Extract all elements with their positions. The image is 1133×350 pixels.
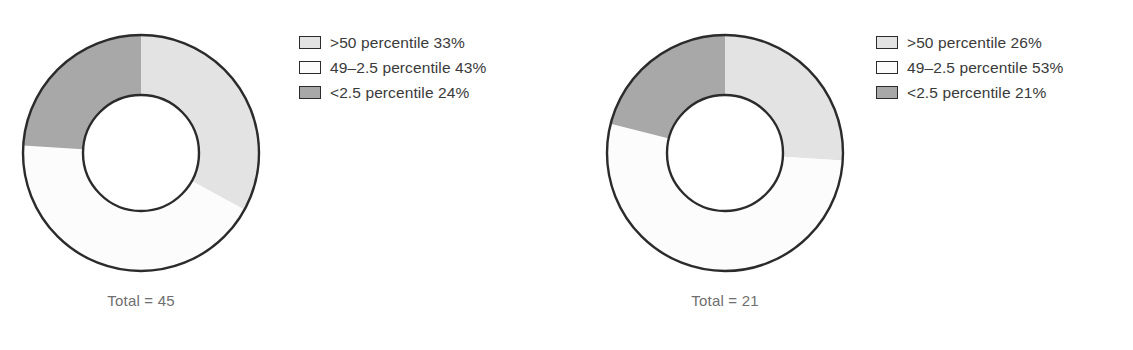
legend-swatch-mid [876,61,898,74]
legend-item-above-50: >50 percentile 26% [876,31,1063,54]
donut-chart-figure: Total = 45 >50 percentile 33% 49–2.5 per… [0,0,1133,350]
legend-item-below-25: <2.5 percentile 21% [876,81,1063,104]
legend-label-below-25: <2.5 percentile 24% [330,84,469,102]
legend-item-mid: 49–2.5 percentile 43% [299,56,486,79]
legend-left: >50 percentile 33% 49–2.5 percentile 43%… [299,31,486,104]
legend-swatch-mid [299,61,321,74]
chart-panel-right: Total = 21 >50 percentile 26% 49–2.5 per… [566,0,1132,350]
donut-chart-left [21,33,261,273]
donut-svg-left [21,33,261,273]
legend-swatch-below-25 [876,86,898,99]
legend-item-below-25: <2.5 percentile 24% [299,81,486,104]
chart-panel-left: Total = 45 >50 percentile 33% 49–2.5 per… [0,0,566,350]
donut-svg-right [605,33,845,273]
legend-swatch-below-25 [299,86,321,99]
legend-item-above-50: >50 percentile 33% [299,31,486,54]
total-label-left: Total = 45 [21,292,261,309]
donut-inner-hole [667,95,783,211]
legend-item-mid: 49–2.5 percentile 53% [876,56,1063,79]
legend-swatch-above-50 [299,36,321,49]
legend-label-below-25: <2.5 percentile 21% [907,84,1046,102]
legend-label-mid: 49–2.5 percentile 43% [330,59,486,77]
donut-inner-hole [83,95,199,211]
donut-chart-right [605,33,845,273]
legend-swatch-above-50 [876,36,898,49]
legend-label-mid: 49–2.5 percentile 53% [907,59,1063,77]
legend-label-above-50: >50 percentile 33% [330,34,465,52]
legend-right: >50 percentile 26% 49–2.5 percentile 53%… [876,31,1063,104]
legend-label-above-50: >50 percentile 26% [907,34,1042,52]
total-label-right: Total = 21 [605,292,845,309]
